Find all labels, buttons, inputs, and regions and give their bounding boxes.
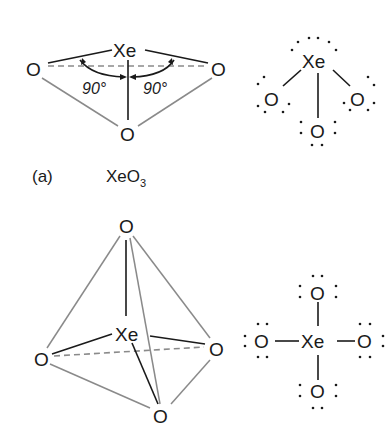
angle-label-right: 90° xyxy=(143,80,168,97)
formula-main: XeO xyxy=(106,167,140,186)
edge-right-bottom xyxy=(171,360,210,404)
atom-o-left: O xyxy=(26,59,41,80)
lewis-atom-o-left: O xyxy=(254,331,269,352)
lewis-bond-right xyxy=(333,70,350,86)
atom-xe: Xe xyxy=(113,40,136,61)
atom-o-right: O xyxy=(211,59,226,80)
lewis-atom-o-top: O xyxy=(310,283,325,304)
figure-canvas: Xe O O O 90° 90° (a) XeO3 Xe O O O xyxy=(0,0,392,431)
lewis-atom-o-right: O xyxy=(357,331,372,352)
formula-subscript: 3 xyxy=(140,177,146,189)
arrowhead-right-icon xyxy=(129,74,136,80)
edge-top-left xyxy=(47,236,120,348)
bond-xe-o-left xyxy=(52,334,112,354)
figure-svg: Xe O O O 90° 90° (a) XeO3 Xe O O O xyxy=(0,0,392,431)
panel-label-a: (a) xyxy=(32,167,53,186)
edge-top-bottom xyxy=(130,238,160,404)
angle-label-left: 90° xyxy=(82,80,107,97)
lewis-bond-left xyxy=(283,70,301,86)
atom-o-bottom: O xyxy=(153,406,168,427)
edge-left-bottom xyxy=(42,78,118,126)
bond-xe-o-right xyxy=(145,50,208,63)
arrowhead-left-icon xyxy=(120,74,127,80)
atom-xe: Xe xyxy=(115,324,138,345)
lewis-atom-xe: Xe xyxy=(302,51,325,72)
xeo4-3d-structure: O Xe O O O xyxy=(34,216,224,427)
formula-xeo3: XeO3 xyxy=(106,167,146,189)
atom-o-top: O xyxy=(119,216,134,237)
atom-o-left: O xyxy=(34,349,49,370)
xeo4-lewis-structure: Xe O O O O xyxy=(244,275,385,410)
xeo3-3d-structure: Xe O O O 90° 90° xyxy=(26,40,226,145)
lewis-atom-o-bottom: O xyxy=(310,121,325,142)
atom-o-bottom: O xyxy=(120,124,135,145)
edge-left-bottom xyxy=(50,364,150,408)
lewis-atom-o-right: O xyxy=(350,89,365,110)
dashed-back-edge xyxy=(54,347,204,356)
lewis-atom-o-left: O xyxy=(264,89,279,110)
xeo3-lewis-structure: Xe O O O xyxy=(257,37,376,147)
xe-lone-pair-dots xyxy=(291,37,338,52)
angle-arc-left xyxy=(80,60,124,77)
angle-arc-right xyxy=(132,60,174,77)
lewis-atom-o-bottom: O xyxy=(310,381,325,402)
atom-o-right: O xyxy=(209,339,224,360)
bond-xe-o-right xyxy=(150,336,205,344)
lewis-atom-xe: Xe xyxy=(301,331,324,352)
